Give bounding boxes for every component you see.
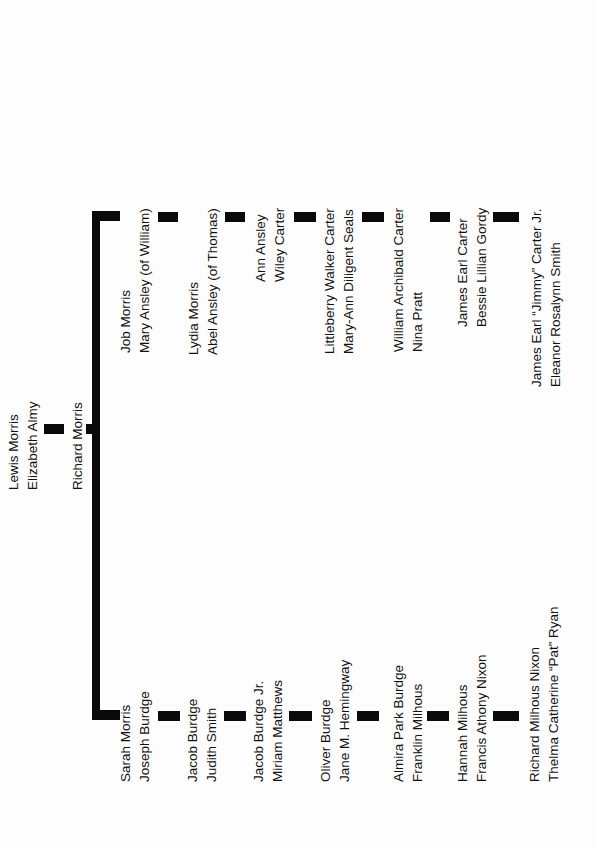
nixon-couple: Hannah Milhous Francis Athony Nixon: [453, 654, 491, 782]
person-name: Lewis Morris: [4, 401, 23, 490]
nixon-gen-connector: [289, 711, 312, 721]
person-name: Eleanor Rosalynn Smith: [546, 208, 565, 387]
carter-gen-connector: [158, 212, 178, 222]
nixon-couple: Jacob Burdge Jr. Miriam Matthews: [249, 680, 287, 782]
person-name: Lydia Morris: [184, 208, 203, 355]
person-name: Abel Ansley (of Thomas): [203, 208, 222, 355]
main-trunk-line: [92, 211, 100, 720]
nixon-gen-connector: [493, 711, 519, 721]
person-name: James Earl “Jimmy” Carter Jr.: [527, 208, 546, 387]
nixon-gen-connector: [357, 711, 379, 721]
person-name: Sarah Morris: [116, 691, 135, 782]
carter-gen-connector: [225, 212, 245, 222]
nixon-couple: Oliver Burdge Jane M. Hemingway: [316, 660, 354, 782]
nixon-couple: Almira Park Burdge Franklin Milhous: [389, 665, 427, 782]
person-name: Almira Park Burdge: [389, 665, 408, 782]
nixon-gen-connector: [158, 711, 180, 721]
person-name: Oliver Burdge: [316, 660, 335, 782]
person-name: William Archibald Carter: [389, 208, 408, 352]
person-name: Franklin Milhous: [408, 665, 427, 782]
person-name: Francis Athony Nixon: [472, 654, 491, 782]
root-child: Richard Morris: [68, 402, 87, 490]
person-name: Littleberry Walker Carter: [320, 208, 339, 354]
carter-couple: Ann Ansley Wiley Carter: [251, 208, 289, 282]
person-name: Richard Morris: [68, 402, 87, 490]
nixon-gen-connector: [224, 711, 246, 721]
nixon-couple: Sarah Morris Joseph Burdge: [116, 691, 154, 782]
person-name: James Earl Carter: [453, 208, 472, 327]
person-name: Joseph Burdge: [135, 691, 154, 782]
person-name: Hannah Milhous: [453, 654, 472, 782]
carter-couple: William Archibald Carter Nina Pratt: [389, 208, 427, 352]
carter-couple: Job Morris Mary Ansley (of William): [116, 208, 154, 353]
person-name: Wiley Carter: [270, 208, 289, 282]
person-name: Judith Smith: [202, 699, 221, 782]
carter-couple: James Earl Carter Bessie Lillian Gordy: [453, 208, 491, 327]
richard-trunk-connector: [86, 424, 94, 434]
person-name: Job Morris: [116, 208, 135, 353]
carter-couple: James Earl “Jimmy” Carter Jr. Eleanor Ro…: [527, 208, 565, 387]
person-name: Mary Ansley (of William): [135, 208, 154, 353]
person-name: Thelma Catherine “Pat” Ryan: [544, 606, 563, 782]
person-name: Richard Milhous Nixon: [525, 606, 544, 782]
carter-gen-connector: [294, 212, 316, 222]
root-couple: Lewis Morris Elizabeth Almy: [4, 401, 42, 490]
person-name: Miriam Matthews: [268, 680, 287, 782]
person-name: Jacob Burdge Jr.: [249, 680, 268, 782]
person-name: Nina Pratt: [408, 208, 427, 352]
nixon-couple: Richard Milhous Nixon Thelma Catherine “…: [525, 606, 563, 782]
carter-couple: Littleberry Walker Carter Mary-Ann Dilig…: [320, 208, 358, 354]
person-name: Mary-Ann Diligent Seals: [339, 208, 358, 354]
carter-gen-connector: [493, 212, 519, 222]
carter-couple: Lydia Morris Abel Ansley (of Thomas): [184, 208, 222, 355]
person-name: Bessie Lillian Gordy: [472, 208, 491, 327]
person-name: Ann Ansley: [251, 208, 270, 282]
person-name: Jacob Burdge: [183, 699, 202, 782]
carter-gen-connector: [362, 212, 384, 222]
carter-gen-connector: [430, 212, 450, 222]
root-couple-connector: [44, 424, 64, 434]
nixon-gen-connector: [427, 711, 449, 721]
nixon-couple: Jacob Burdge Judith Smith: [183, 699, 221, 782]
person-name: Jane M. Hemingway: [335, 660, 354, 782]
person-name: Elizabeth Almy: [23, 401, 42, 490]
